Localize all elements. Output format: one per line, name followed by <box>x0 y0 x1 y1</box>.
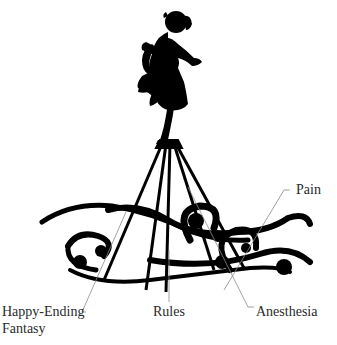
label-anesthesia: Anesthesia <box>256 303 317 320</box>
leader-happy-ending <box>82 212 126 312</box>
label-pain: Pain <box>296 181 321 198</box>
label-happy-ending-line2: Fantasy <box>2 320 46 337</box>
waves-icon <box>42 205 310 281</box>
girl-silhouette-icon <box>138 11 203 144</box>
diagram-illustration <box>0 0 337 345</box>
label-happy-ending-line1: Happy-Ending <box>2 303 84 320</box>
label-rules: Rules <box>153 303 185 320</box>
